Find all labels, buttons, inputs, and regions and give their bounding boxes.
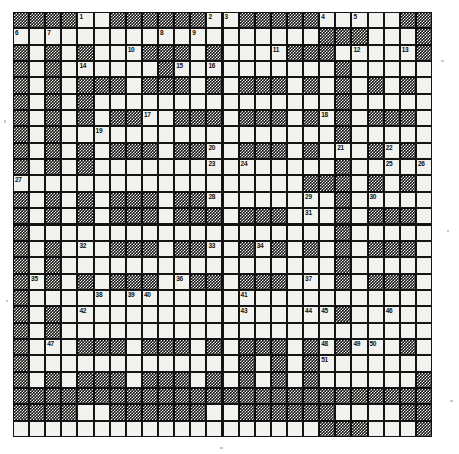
answer-cell-numbered[interactable]: 32 xyxy=(77,241,93,257)
answer-cell[interactable] xyxy=(126,355,142,371)
answer-cell[interactable] xyxy=(384,77,400,93)
answer-cell[interactable] xyxy=(77,323,93,339)
answer-cell[interactable] xyxy=(158,257,174,273)
answer-cell[interactable] xyxy=(190,77,206,93)
answer-cell[interactable] xyxy=(29,241,45,257)
answer-cell[interactable] xyxy=(190,372,206,388)
answer-cell[interactable] xyxy=(223,355,239,371)
answer-cell[interactable] xyxy=(126,61,142,77)
answer-cell[interactable] xyxy=(158,175,174,191)
answer-cell[interactable] xyxy=(94,28,110,44)
answer-cell[interactable] xyxy=(110,159,126,175)
answer-cell[interactable] xyxy=(287,208,303,224)
answer-cell[interactable] xyxy=(400,225,416,241)
answer-cell[interactable] xyxy=(77,404,93,420)
answer-cell[interactable] xyxy=(384,175,400,191)
answer-cell[interactable] xyxy=(255,175,271,191)
answer-cell-numbered[interactable]: 4 xyxy=(319,12,335,28)
answer-cell[interactable] xyxy=(142,421,158,437)
answer-cell[interactable] xyxy=(142,28,158,44)
answer-cell[interactable] xyxy=(287,61,303,77)
answer-cell[interactable] xyxy=(190,159,206,175)
answer-cell[interactable] xyxy=(271,94,287,110)
answer-cell[interactable] xyxy=(287,110,303,126)
answer-cell[interactable] xyxy=(29,257,45,273)
answer-cell[interactable] xyxy=(29,339,45,355)
answer-cell[interactable] xyxy=(45,355,61,371)
answer-cell[interactable] xyxy=(126,175,142,191)
answer-cell[interactable] xyxy=(319,274,335,290)
answer-cell[interactable] xyxy=(158,192,174,208)
answer-cell[interactable] xyxy=(29,175,45,191)
answer-cell[interactable] xyxy=(319,290,335,306)
answer-cell[interactable] xyxy=(368,28,384,44)
answer-cell[interactable] xyxy=(255,225,271,241)
answer-cell[interactable] xyxy=(416,143,432,159)
answer-cell[interactable] xyxy=(61,355,77,371)
answer-cell[interactable] xyxy=(223,306,239,322)
answer-cell[interactable] xyxy=(94,225,110,241)
answer-cell[interactable] xyxy=(368,94,384,110)
answer-cell[interactable] xyxy=(223,225,239,241)
answer-cell[interactable] xyxy=(223,290,239,306)
answer-cell[interactable] xyxy=(303,126,319,142)
answer-cell-numbered[interactable]: 26 xyxy=(416,159,432,175)
answer-cell[interactable] xyxy=(255,94,271,110)
answer-cell[interactable] xyxy=(94,94,110,110)
answer-cell[interactable] xyxy=(368,421,384,437)
answer-cell[interactable] xyxy=(351,355,367,371)
answer-cell[interactable] xyxy=(206,94,222,110)
answer-cell[interactable] xyxy=(287,257,303,273)
answer-cell[interactable] xyxy=(77,126,93,142)
answer-cell[interactable] xyxy=(303,421,319,437)
answer-cell[interactable] xyxy=(319,225,335,241)
answer-cell-numbered[interactable]: 17 xyxy=(142,110,158,126)
answer-cell-numbered[interactable]: 18 xyxy=(319,110,335,126)
answer-cell-numbered[interactable]: 21 xyxy=(335,143,351,159)
answer-cell[interactable] xyxy=(255,45,271,61)
answer-cell[interactable] xyxy=(190,290,206,306)
answer-cell[interactable] xyxy=(45,290,61,306)
answer-cell[interactable] xyxy=(126,28,142,44)
answer-cell-numbered[interactable]: 41 xyxy=(239,290,255,306)
answer-cell[interactable] xyxy=(351,323,367,339)
answer-cell[interactable] xyxy=(384,192,400,208)
answer-cell[interactable] xyxy=(158,241,174,257)
answer-cell[interactable] xyxy=(287,77,303,93)
answer-cell[interactable] xyxy=(126,339,142,355)
answer-cell[interactable] xyxy=(206,126,222,142)
answer-cell-numbered[interactable]: 14 xyxy=(77,61,93,77)
answer-cell[interactable] xyxy=(255,372,271,388)
answer-cell[interactable] xyxy=(158,208,174,224)
answer-cell-numbered[interactable]: 6 xyxy=(13,28,29,44)
answer-cell[interactable] xyxy=(287,175,303,191)
answer-cell[interactable] xyxy=(174,355,190,371)
answer-cell-numbered[interactable]: 30 xyxy=(368,192,384,208)
answer-cell-numbered[interactable]: 15 xyxy=(174,61,190,77)
answer-cell[interactable] xyxy=(319,208,335,224)
answer-cell[interactable] xyxy=(255,257,271,273)
answer-cell[interactable] xyxy=(303,257,319,273)
answer-cell[interactable] xyxy=(351,126,367,142)
answer-cell-numbered[interactable]: 11 xyxy=(271,45,287,61)
answer-cell[interactable] xyxy=(94,61,110,77)
answer-cell[interactable] xyxy=(29,355,45,371)
answer-cell[interactable] xyxy=(94,323,110,339)
answer-cell[interactable] xyxy=(368,257,384,273)
answer-cell-numbered[interactable]: 50 xyxy=(368,339,384,355)
answer-cell[interactable] xyxy=(174,94,190,110)
answer-cell[interactable] xyxy=(142,94,158,110)
crossword-grid[interactable]: 1234567891011121314151617181920212223242… xyxy=(13,12,432,437)
answer-cell[interactable] xyxy=(158,421,174,437)
answer-cell[interactable] xyxy=(255,61,271,77)
answer-cell[interactable] xyxy=(400,159,416,175)
answer-cell[interactable] xyxy=(29,225,45,241)
answer-cell[interactable] xyxy=(368,355,384,371)
answer-cell[interactable] xyxy=(110,257,126,273)
answer-cell-numbered[interactable]: 27 xyxy=(13,175,29,191)
answer-cell[interactable] xyxy=(110,421,126,437)
answer-cell[interactable] xyxy=(255,355,271,371)
answer-cell[interactable] xyxy=(384,323,400,339)
answer-cell[interactable] xyxy=(255,192,271,208)
answer-cell[interactable] xyxy=(319,77,335,93)
